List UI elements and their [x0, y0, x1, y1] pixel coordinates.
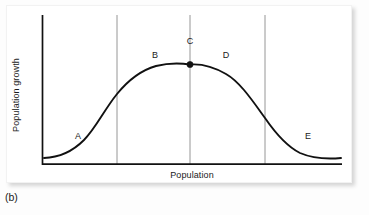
figure-caption: (b) [5, 191, 18, 203]
figure-root: Population growth Population A B C D E (… [0, 0, 369, 215]
curve-annotation-e: E [301, 131, 315, 141]
curve-annotation-d: D [219, 50, 233, 60]
curve-annotation-c: C [183, 36, 197, 46]
x-axis-title: Population [42, 170, 342, 180]
curve-annotation-a: A [71, 131, 85, 141]
curve-annotation-b: B [148, 50, 162, 60]
y-axis-title: Population growth [11, 47, 21, 143]
chart-panel [6, 5, 352, 183]
